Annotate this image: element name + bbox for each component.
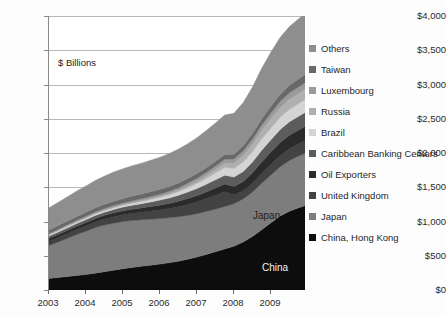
legend-item[interactable]: Oil Exporters: [309, 164, 445, 185]
chart-figure: $4,000$3,500$3,000$2,500$2,000$1,500$1,0…: [0, 0, 446, 317]
legend-item-label: Japan: [321, 212, 347, 222]
chart-legend: OthersTaiwanLuxembourgRussiaBrazilCaribb…: [309, 38, 445, 248]
x-axis-tick-label: 2009: [259, 298, 280, 308]
plot-label-japan: Japan: [253, 210, 280, 221]
legend-swatch-icon: [309, 234, 316, 241]
y-axis-tick-label: $500: [402, 251, 446, 261]
legend-item[interactable]: Japan: [309, 206, 445, 227]
units-annotation: $ Billions: [58, 57, 96, 68]
x-axis-tick-label: 2006: [148, 298, 169, 308]
x-axis-tick-label: 2007: [185, 298, 206, 308]
legend-swatch-icon: [309, 129, 316, 136]
legend-swatch-icon: [309, 171, 316, 178]
legend-item[interactable]: Others: [309, 38, 445, 59]
legend-swatch-icon: [309, 192, 316, 199]
legend-item-label: China, Hong Kong: [321, 233, 399, 243]
x-axis-tick: [85, 290, 86, 294]
legend-swatch-icon: [309, 213, 316, 220]
legend-item[interactable]: China, Hong Kong: [309, 227, 445, 248]
x-axis-tick: [270, 290, 271, 294]
x-axis-tick: [233, 290, 234, 294]
legend-item[interactable]: Russia: [309, 101, 445, 122]
legend-item-label: Russia: [321, 107, 350, 117]
legend-swatch-icon: [309, 150, 316, 157]
x-axis-tick-label: 2004: [74, 298, 95, 308]
legend-item[interactable]: Caribbean Banking Centers: [309, 143, 445, 164]
legend-item[interactable]: Taiwan: [309, 59, 445, 80]
x-axis-tick: [196, 290, 197, 294]
legend-swatch-icon: [309, 87, 316, 94]
legend-item-label: Luxembourg: [321, 86, 374, 96]
x-axis-tick: [122, 290, 123, 294]
legend-item[interactable]: Brazil: [309, 122, 445, 143]
plot-label-china: China: [262, 262, 288, 273]
x-axis-tick-label: 2003: [37, 298, 58, 308]
legend-item[interactable]: United Kingdom: [309, 185, 445, 206]
legend-item-label: Taiwan: [321, 65, 351, 75]
legend-item-label: Brazil: [321, 128, 345, 138]
legend-item-label: United Kingdom: [321, 191, 389, 201]
x-axis-tick-label: 2005: [111, 298, 132, 308]
legend-swatch-icon: [309, 45, 316, 52]
legend-swatch-icon: [309, 66, 316, 73]
legend-item[interactable]: Luxembourg: [309, 80, 445, 101]
x-axis-tick: [48, 290, 49, 294]
y-axis-tick-label: $4,000: [402, 11, 446, 21]
x-axis-tick: [159, 290, 160, 294]
legend-swatch-icon: [309, 108, 316, 115]
y-axis-tick-label: $0: [402, 285, 446, 295]
legend-item-label: Caribbean Banking Centers: [321, 149, 438, 159]
legend-item-label: Others: [321, 44, 350, 54]
legend-item-label: Oil Exporters: [321, 170, 376, 180]
x-axis-tick-label: 2008: [222, 298, 243, 308]
